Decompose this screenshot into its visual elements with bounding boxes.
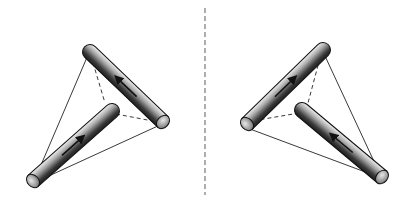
connector-lines bbox=[38, 55, 378, 180]
skew-rods-diagram bbox=[0, 0, 414, 207]
left-bottom-rod bbox=[24, 100, 123, 190]
rods bbox=[24, 39, 391, 190]
right-bottom-rod bbox=[291, 99, 391, 186]
diagram-canvas bbox=[0, 0, 414, 207]
